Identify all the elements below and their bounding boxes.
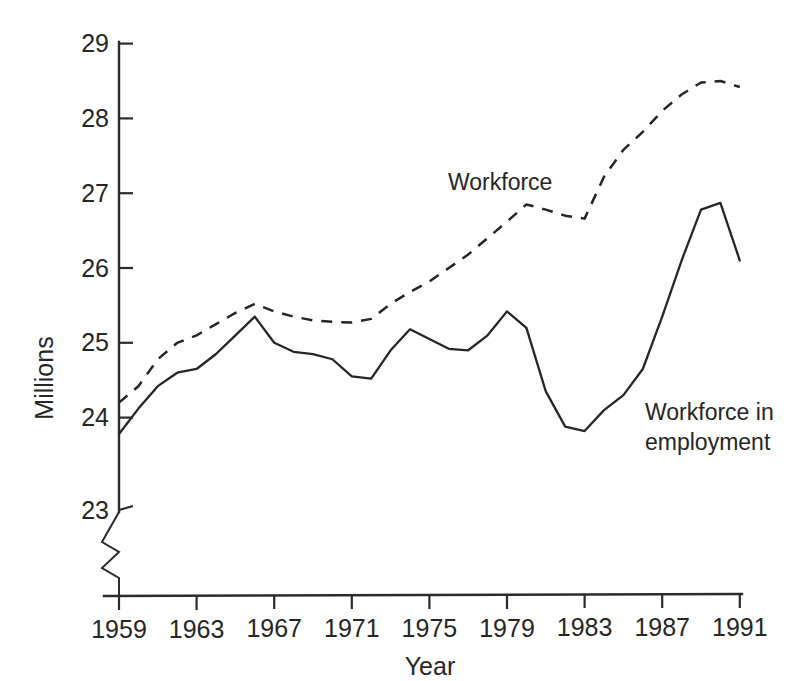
y-tick-label-27: 27 <box>81 179 109 207</box>
y-axis-break-zigzag <box>102 512 119 596</box>
y-axis-title: Millions <box>30 336 58 419</box>
y-tick-marks <box>119 44 133 510</box>
y-tick-label-25: 25 <box>81 328 109 356</box>
x-tick-label-1959: 1959 <box>91 615 147 643</box>
x-tick-label-1987: 1987 <box>634 613 690 641</box>
x-tick-label-1991: 1991 <box>712 613 768 641</box>
series-line-workforce <box>119 81 740 403</box>
series-annotation-workforce-in-employment: Workforce in employment <box>645 399 780 455</box>
y-tick-labels: 29 28 27 26 25 24 23 <box>81 29 109 524</box>
y-tick-label-29: 29 <box>81 29 109 57</box>
y-tick-label-24: 24 <box>81 403 109 431</box>
line-chart: 29 28 27 26 25 24 23 Millions 1959 1963 … <box>0 0 793 681</box>
x-tick-label-1967: 1967 <box>246 614 302 642</box>
x-tick-label-1979: 1979 <box>479 614 535 642</box>
x-tick-label-1963: 1963 <box>169 615 225 643</box>
y-tick-label-28: 28 <box>81 104 109 132</box>
x-tick-label-1975: 1975 <box>402 614 458 642</box>
x-axis-line <box>104 594 742 596</box>
chart-container: 29 28 27 26 25 24 23 Millions 1959 1963 … <box>0 0 793 681</box>
y-tick-23 <box>119 506 133 510</box>
y-tick-label-26: 26 <box>81 254 109 282</box>
x-axis-title: Year <box>405 652 456 680</box>
x-tick-label-1971: 1971 <box>324 614 380 642</box>
y-tick-label-23: 23 <box>81 496 109 524</box>
x-tick-label-1983: 1983 <box>557 613 613 641</box>
x-tick-labels: 1959 1963 1967 1971 1975 1979 1983 1987 … <box>91 613 767 643</box>
series-annotation-workforce: Workforce <box>448 169 552 195</box>
